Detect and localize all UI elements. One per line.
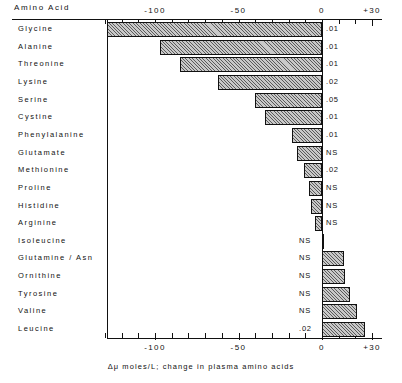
bar-valine	[322, 304, 357, 319]
p-value-cystine: .01	[326, 112, 339, 121]
chart-row: Phenylalanine.01	[0, 126, 402, 145]
chart-row: TyrosineNS	[0, 285, 402, 304]
bar-lysine	[218, 75, 322, 90]
axis-tick-label-bottom-+30: +30	[363, 343, 381, 352]
row-label-isoleucine: Isoleucine	[18, 236, 67, 245]
bar-leucine	[322, 322, 365, 337]
row-label-glutamine-asn: Glutamine / Asn	[18, 253, 93, 262]
p-value-ornithine: NS	[299, 271, 311, 280]
p-value-tyrosine: NS	[299, 289, 311, 298]
chart-row: ArginineNS	[0, 214, 402, 233]
axis-tick-label-top-+30: +30	[363, 6, 381, 15]
bar-histidine	[311, 199, 322, 214]
axis-tick-label-bottom-0: 0	[319, 343, 325, 352]
p-value-threonine: .01	[326, 59, 339, 68]
p-value-methionine: .02	[326, 165, 339, 174]
axis-tick-label-top--100: -100	[144, 6, 166, 15]
chart-row: Threonine.01	[0, 55, 402, 74]
chart-row: Lysine.02	[0, 73, 402, 92]
p-value-glutamate: NS	[326, 148, 338, 157]
bar-glutamine-asn	[322, 251, 344, 266]
bar-arginine	[315, 216, 322, 231]
bar-ornithine	[322, 269, 345, 284]
bar-isoleucine	[322, 234, 324, 249]
chart-row: Glutamine / AsnNS	[0, 249, 402, 268]
chart-row: ProlineNS	[0, 179, 402, 198]
row-label-phenylalanine: Phenylalanine	[18, 130, 85, 139]
bar-phenylalanine	[292, 128, 322, 143]
row-label-glycine: Glycine	[18, 24, 54, 33]
axis-tick-label-bottom--50: -50	[231, 343, 247, 352]
p-value-isoleucine: NS	[299, 236, 311, 245]
chart-caption: Δμ moles/L; change in plasma amino acids	[0, 362, 402, 371]
amino-acid-bar-chart: Amino Acid -100-100-50-5000+30+30 Glycin…	[0, 0, 402, 383]
row-label-arginine: Arginine	[18, 218, 58, 227]
row-label-lysine: Lysine	[18, 77, 48, 86]
p-value-proline: NS	[326, 183, 338, 192]
p-value-lysine: .02	[326, 77, 339, 86]
p-value-leucine: .02	[299, 324, 312, 333]
row-label-cystine: Cystine	[18, 112, 54, 121]
bar-threonine	[180, 57, 322, 72]
bar-methionine	[304, 163, 322, 178]
bar-glutamate	[297, 146, 322, 161]
p-value-arginine: NS	[326, 218, 338, 227]
bar-cystine	[265, 110, 322, 125]
row-label-serine: Serine	[18, 95, 49, 104]
row-label-proline: Proline	[18, 183, 52, 192]
chart-row: Glycine.01	[0, 20, 402, 39]
p-value-serine: .05	[326, 95, 339, 104]
row-label-alanine: Alanine	[18, 42, 54, 51]
chart-row: ValineNS	[0, 302, 402, 321]
p-value-glycine: .01	[326, 24, 339, 33]
chart-row: Alanine.01	[0, 38, 402, 57]
axis-tick-label-bottom--100: -100	[144, 343, 166, 352]
chart-row: Cystine.01	[0, 108, 402, 127]
row-label-valine: Valine	[18, 306, 47, 315]
row-label-glutamate: Glutamate	[18, 148, 66, 157]
chart-row: GlutamateNS	[0, 144, 402, 163]
p-value-phenylalanine: .01	[326, 130, 339, 139]
chart-row: Methionine.02	[0, 161, 402, 180]
p-value-glutamine-asn: NS	[299, 253, 311, 262]
bar-alanine	[160, 40, 322, 55]
row-label-tyrosine: Tyrosine	[18, 289, 58, 298]
axis-tick-label-top-0: 0	[319, 6, 325, 15]
row-label-threonine: Threonine	[18, 59, 65, 68]
p-value-alanine: .01	[326, 42, 339, 51]
row-label-histidine: Histidine	[18, 201, 60, 210]
row-label-ornithine: Ornithine	[18, 271, 62, 280]
bar-tyrosine	[322, 287, 350, 302]
row-label-leucine: Leucine	[18, 324, 55, 333]
chart-row: IsoleucineNS	[0, 232, 402, 251]
p-value-valine: NS	[299, 306, 311, 315]
bar-proline	[309, 181, 322, 196]
bar-glycine	[107, 22, 322, 37]
chart-row: OrnithineNS	[0, 267, 402, 286]
chart-row: Leucine.02	[0, 320, 402, 339]
axis-tick-label-top--50: -50	[231, 6, 247, 15]
row-label-methionine: Methionine	[18, 165, 70, 174]
chart-row: HistidineNS	[0, 197, 402, 216]
chart-row: Serine.05	[0, 91, 402, 110]
column-header-amino-acid: Amino Acid	[14, 3, 70, 12]
p-value-histidine: NS	[326, 201, 338, 210]
bar-serine	[255, 93, 322, 108]
